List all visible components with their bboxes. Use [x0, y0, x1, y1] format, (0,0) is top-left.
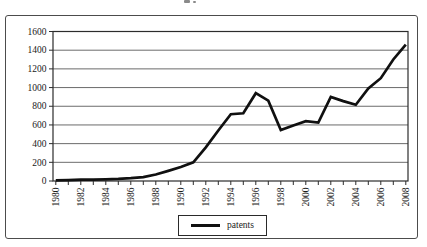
- patents-line-chart: 0200400600800100012001400160019801982198…: [0, 0, 427, 247]
- x-tick-label: 1988: [151, 187, 161, 206]
- y-tick-label: 800: [32, 101, 47, 111]
- x-tick-label: 2006: [376, 187, 386, 206]
- x-tick-label: 2000: [301, 187, 311, 206]
- x-tick-label: 2002: [326, 187, 336, 206]
- x-tick-label: 1994: [226, 187, 236, 206]
- x-axis: 1980198219841986198819901992199419961998…: [51, 181, 411, 207]
- y-axis: 02004006008001000120014001600: [28, 27, 54, 187]
- y-tick-label: 0: [42, 176, 47, 186]
- x-tick-label: 2008: [401, 187, 411, 206]
- legend-label: patents: [227, 220, 254, 231]
- y-tick-label: 400: [32, 139, 47, 149]
- x-tick-label: 1998: [276, 187, 286, 206]
- legend: patents: [178, 215, 267, 236]
- legend-line-icon: [191, 224, 220, 227]
- x-tick-label: 1980: [51, 187, 61, 206]
- y-tick-label: 200: [32, 158, 47, 168]
- x-tick-label: 1982: [76, 187, 86, 206]
- y-tick-label: 600: [32, 120, 47, 130]
- x-tick-label: 1996: [251, 187, 261, 206]
- x-tick-label: 1986: [126, 187, 136, 206]
- patents-series-line: [56, 45, 406, 181]
- x-tick-label: 1984: [101, 187, 111, 206]
- gridlines: [53, 32, 408, 163]
- y-tick-label: 1400: [28, 45, 47, 55]
- x-tick-label: 1990: [176, 187, 186, 206]
- y-tick-label: 1600: [28, 27, 47, 37]
- x-tick-label: 1992: [201, 187, 211, 206]
- y-tick-label: 1000: [28, 83, 47, 93]
- y-tick-label: 1200: [28, 64, 47, 74]
- screenshot-stage: 0200400600800100012001400160019801982198…: [0, 0, 427, 247]
- x-tick-label: 2004: [351, 187, 361, 206]
